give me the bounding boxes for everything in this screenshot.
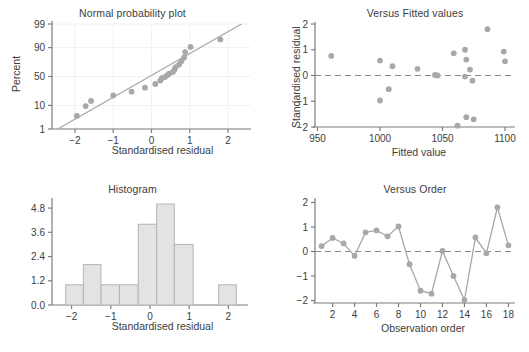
normal-plot-x-tick-label: 2 (225, 135, 231, 146)
fitted-plot-y-tick-label: 1 (302, 44, 308, 55)
fitted-plot-y-tick-label: 0 (302, 70, 308, 81)
fitted-plot-y-tick-label: −1 (297, 96, 309, 107)
order-plot-data-point (462, 297, 468, 303)
fitted-plot-data-point (485, 26, 491, 32)
fitted-plot-data-point (463, 57, 469, 63)
order-plot-x-tick-label: 12 (437, 309, 449, 320)
fitted-plot-data-point (462, 47, 468, 53)
histogram-bar (174, 244, 193, 305)
normal-plot-data-point (110, 93, 116, 99)
histogram-y-tick-label: 3.6 (31, 227, 45, 238)
order-plot-y-tick-label: 1 (302, 222, 308, 233)
fitted-plot-data-point (415, 66, 421, 72)
fitted-plot-data-point (471, 116, 477, 122)
order-plot-data-point (484, 251, 490, 257)
order-plot-x-tick-label: 18 (503, 309, 515, 320)
order-plot-data-point (506, 242, 512, 248)
order-plot-data-point (473, 235, 479, 241)
histogram-x-tick-label: −2 (66, 311, 78, 322)
order-plot-data-point (374, 228, 380, 234)
panel-normal-probability-plot: Normal probability plot Percent Standard… (0, 0, 265, 176)
fitted-plot-data-point (377, 98, 383, 104)
order-plot-y-tick-label: −1 (297, 271, 309, 282)
normal-plot-data-point (88, 98, 94, 104)
normal-plot-data-point (74, 113, 80, 119)
histogram-x-tick-label: 1 (186, 311, 192, 322)
normal-plot-x-tick-label: 0 (149, 135, 155, 146)
order-plot-data-point (341, 241, 347, 247)
fitted-plot-data-point (435, 73, 441, 79)
normal-plot-x-tick-label: 1 (187, 135, 193, 146)
normal-plot-y-tick-label: 99 (34, 19, 46, 30)
normal-plot-data-point (181, 55, 187, 61)
histogram-group: 0.01.22.43.64.8−2−1012 (31, 198, 248, 322)
panel-histogram: Histogram Frequency Standardised residua… (0, 176, 265, 352)
fitted-plot-group: −2−1012950100010501100 (297, 19, 517, 144)
fitted-plot-data-point (328, 53, 334, 59)
order-plot-data-point (495, 204, 501, 210)
order-plot-x-tick-label: 16 (481, 309, 493, 320)
histogram-bar (83, 265, 101, 305)
fitted-plot-y-tick-label: 2 (302, 19, 308, 30)
order-plot-data-point (385, 233, 391, 239)
histogram-x-tick-label: 0 (147, 311, 153, 322)
fitted-plot-data-point (467, 67, 473, 73)
order-plot-x-tick-label: 4 (352, 309, 358, 320)
fitted-plot-y-tick-label: −2 (297, 122, 309, 133)
order-plot-x-tick-label: 8 (396, 309, 402, 320)
fitted-plot-x-tick-label: 1050 (431, 133, 454, 144)
order-plot-x-tick-label: 6 (374, 309, 380, 320)
normal-plot-data-point (83, 103, 89, 109)
histogram-bar (66, 285, 84, 305)
histogram-bar (119, 285, 138, 305)
histogram-y-tick-label: 4.8 (31, 203, 45, 214)
normal-plot-data-point (182, 49, 188, 55)
panel-versus-fitted-values: Versus Fitted values Standardised residu… (265, 0, 529, 176)
order-plot-data-point (429, 291, 435, 297)
histogram-bar (138, 224, 156, 305)
normal-plot-x-tick-label: −1 (108, 135, 120, 146)
normal-plot-data-point (217, 36, 223, 42)
histogram-x-tick-label: 2 (226, 311, 232, 322)
fitted-plot-x-tick-label: 1100 (494, 133, 516, 144)
fitted-plot-data-point (462, 74, 468, 80)
fitted-plot-canvas: −2−1012950100010501100 (265, 0, 529, 176)
order-plot-x-tick-label: 10 (415, 309, 427, 320)
fitted-plot-data-point (470, 78, 476, 84)
histogram-y-tick-label: 1.2 (31, 275, 45, 286)
fitted-plot-x-tick-label: 1000 (369, 133, 392, 144)
histogram-y-tick-label: 2.4 (31, 251, 45, 262)
order-plot-x-tick-label: 14 (459, 309, 471, 320)
normal-plot-x-tick-label: −2 (69, 135, 81, 146)
order-plot-y-tick-label: 2 (302, 197, 308, 208)
normal-plot-data-point (188, 44, 194, 50)
fitted-plot-data-point (451, 50, 457, 56)
histogram-bar (157, 204, 175, 305)
order-plot-series-line (322, 207, 509, 300)
histogram-x-tick-label: −1 (105, 311, 117, 322)
histogram-y-tick-label: 0.0 (31, 300, 45, 311)
order-plot-data-point (451, 273, 457, 279)
normal-plot-canvas: 110509099−2−1012 (0, 0, 265, 176)
order-plot-data-point (440, 248, 446, 254)
residual-plots-figure: Normal probability plot Percent Standard… (0, 0, 529, 352)
order-plot-y-tick-label: 0 (302, 246, 308, 257)
normal-plot-group: 110509099−2−1012 (34, 19, 251, 146)
order-plot-data-point (352, 253, 358, 259)
normal-plot-y-tick-label: 1 (39, 124, 45, 135)
order-plot-data-point (407, 261, 413, 267)
normal-plot-data-point (152, 81, 158, 87)
order-plot-x-tick-label: 2 (330, 309, 336, 320)
order-plot-data-point (396, 224, 402, 230)
histogram-bar (101, 285, 119, 305)
fitted-plot-data-point (455, 123, 461, 129)
normal-plot-y-tick-label: 10 (34, 100, 46, 111)
fitted-plot-x-tick-label: 950 (309, 133, 326, 144)
order-plot-data-point (319, 243, 325, 249)
normal-plot-data-point (129, 89, 135, 95)
normal-plot-y-tick-label: 50 (34, 71, 46, 82)
normal-plot-y-tick-label: 90 (34, 42, 46, 53)
order-plot-y-tick-label: −2 (297, 295, 309, 306)
fitted-plot-data-point (390, 63, 396, 69)
order-plot-data-point (418, 288, 424, 294)
